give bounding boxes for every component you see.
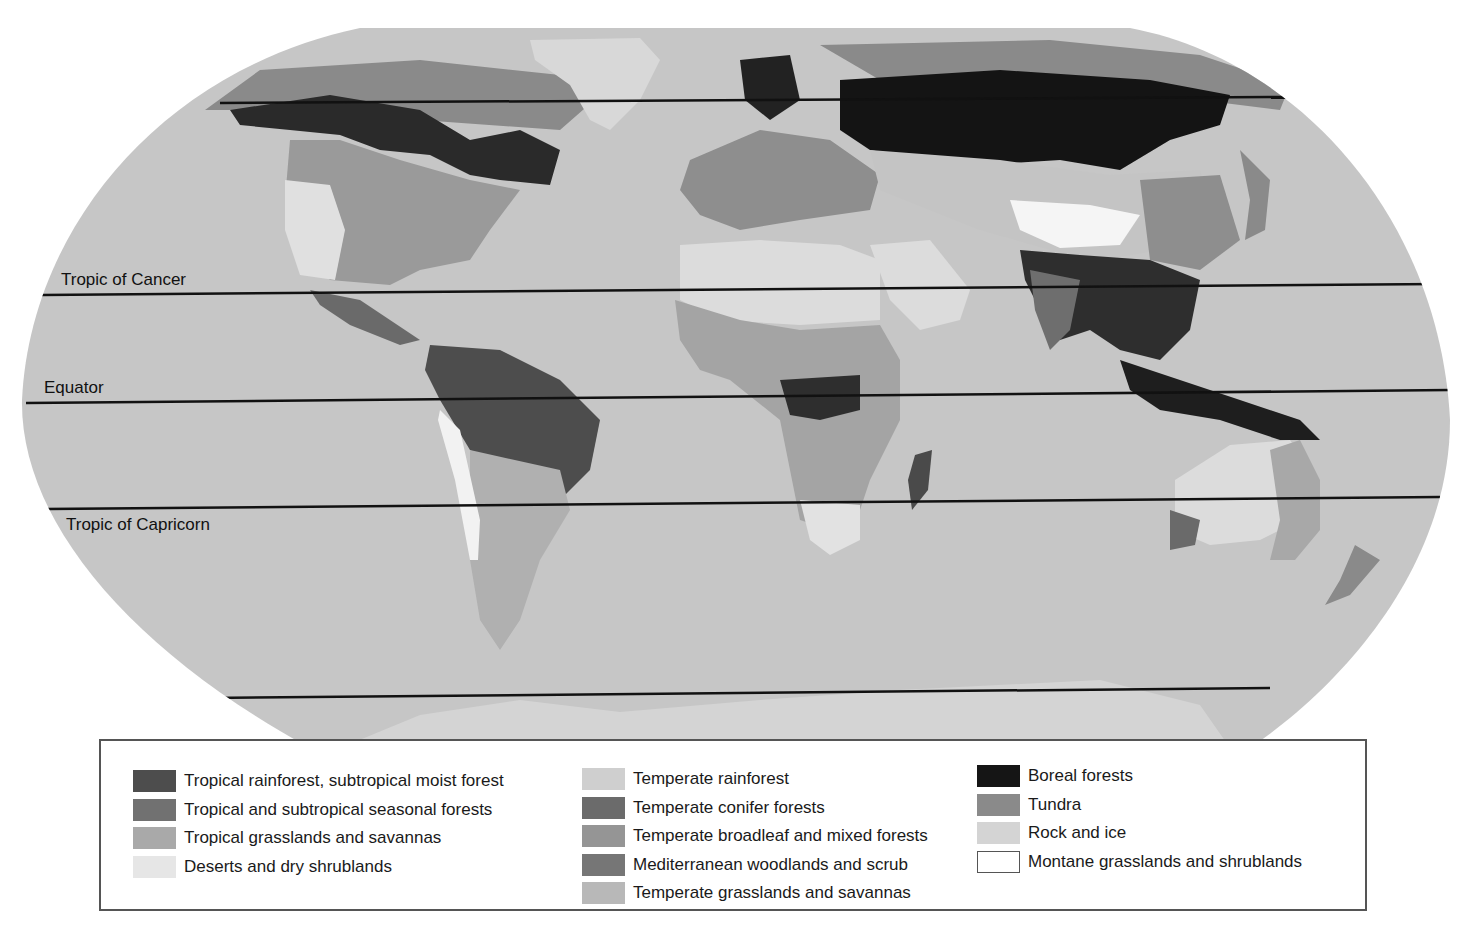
legend-item: Temperate rainforest	[582, 765, 928, 794]
legend-label: Temperate grasslands and savannas	[633, 883, 911, 903]
legend-label: Temperate conifer forests	[633, 798, 825, 818]
legend-item: Deserts and dry shrublands	[133, 853, 504, 882]
legend-column-temperate: Temperate rainforest Temperate conifer f…	[582, 765, 928, 908]
swatch-boreal	[977, 765, 1020, 787]
legend-label: Mediterranean woodlands and scrub	[633, 855, 908, 875]
legend-label: Montane grasslands and shrublands	[1028, 852, 1302, 872]
swatch-tropical-seasonal-forest	[133, 799, 176, 821]
legend-label: Rock and ice	[1028, 823, 1126, 843]
legend-item: Tropical and subtropical seasonal forest…	[133, 796, 504, 825]
swatch-tundra	[977, 794, 1020, 816]
legend-label: Tundra	[1028, 795, 1081, 815]
legend-item: Montane grasslands and shrublands	[977, 848, 1302, 877]
swatch-tropical-grassland	[133, 827, 176, 849]
swatch-temperate-conifer	[582, 797, 625, 819]
legend-item: Temperate broadleaf and mixed forests	[582, 822, 928, 851]
swatch-temperate-broadleaf	[582, 825, 625, 847]
legend-label: Tropical and subtropical seasonal forest…	[184, 800, 492, 820]
legend-item: Temperate conifer forests	[582, 794, 928, 823]
legend-label: Boreal forests	[1028, 766, 1133, 786]
legend-item: Rock and ice	[977, 819, 1302, 848]
equator-label: Equator	[44, 378, 104, 398]
legend-label: Tropical rainforest, subtropical moist f…	[184, 771, 504, 791]
legend-item: Tropical rainforest, subtropical moist f…	[133, 767, 504, 796]
legend-label: Temperate rainforest	[633, 769, 789, 789]
swatch-desert	[133, 856, 176, 878]
legend-label: Tropical grasslands and savannas	[184, 828, 441, 848]
swatch-temperate-grassland	[582, 882, 625, 904]
legend: Tropical rainforest, subtropical moist f…	[99, 739, 1367, 911]
legend-column-tropical: Tropical rainforest, subtropical moist f…	[133, 767, 504, 881]
legend-item: Tundra	[977, 791, 1302, 820]
tropic-of-cancer-label: Tropic of Cancer	[61, 270, 186, 290]
tropic-of-capricorn-label: Tropic of Capricorn	[66, 515, 210, 535]
legend-column-polar-montane: Boreal forests Tundra Rock and ice Monta…	[977, 762, 1302, 876]
legend-label: Deserts and dry shrublands	[184, 857, 392, 877]
swatch-temperate-rainforest	[582, 768, 625, 790]
swatch-mediterranean	[582, 854, 625, 876]
legend-item: Mediterranean woodlands and scrub	[582, 851, 928, 880]
swatch-tropical-rainforest	[133, 770, 176, 792]
legend-item: Tropical grasslands and savannas	[133, 824, 504, 853]
swatch-rock-ice	[977, 822, 1020, 844]
legend-label: Temperate broadleaf and mixed forests	[633, 826, 928, 846]
legend-item: Temperate grasslands and savannas	[582, 879, 928, 908]
swatch-montane	[977, 851, 1020, 873]
legend-item: Boreal forests	[977, 762, 1302, 791]
